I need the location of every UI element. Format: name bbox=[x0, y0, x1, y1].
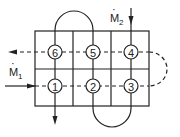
node-6-label: 6 bbox=[52, 47, 58, 59]
outlet-bottom-arrow-icon bbox=[53, 116, 58, 125]
dashed-return-arc bbox=[149, 52, 167, 86]
node-3-label: 3 bbox=[128, 81, 134, 93]
top-loop-arc bbox=[55, 11, 93, 31]
inlet-m1-dot: · bbox=[11, 57, 15, 69]
node-1-label: 1 bbox=[52, 81, 58, 93]
node-5-label: 5 bbox=[90, 47, 96, 59]
bottom-loop-arc bbox=[93, 106, 131, 127]
node-2-label: 2 bbox=[90, 81, 96, 93]
inlet-m2-arrow-icon bbox=[129, 16, 134, 25]
flow-diagram: 6 5 4 1 2 3 M 1 · M 2 · bbox=[0, 0, 180, 137]
inlet-m2-dot: · bbox=[112, 3, 116, 15]
node-4-label: 4 bbox=[128, 47, 134, 59]
inlet-m1-subscript: 1 bbox=[18, 72, 23, 81]
outlet-left-arrow-icon bbox=[8, 50, 17, 55]
inlet-m2-subscript: 2 bbox=[119, 18, 124, 27]
